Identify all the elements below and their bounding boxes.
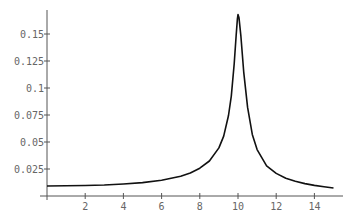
x-tick-label: 8 (197, 201, 203, 212)
y-tick-label: 0.1 (26, 83, 44, 94)
y-tick-label: 0.125 (14, 56, 44, 67)
y-tick-label: 0.05 (20, 137, 44, 148)
y-ticks: 0.0250.050.0750.10.1250.15 (14, 29, 50, 175)
y-axis: 0.0250.050.0750.10.1250.15 (14, 10, 50, 200)
y-tick-label: 0.025 (14, 164, 44, 175)
x-tick-label: 6 (159, 201, 165, 212)
y-tick-label: 0.075 (14, 110, 44, 121)
x-tick-label: 10 (232, 201, 244, 212)
line-chart: 2468101214 0.0250.050.0750.10.1250.15 (0, 0, 350, 218)
y-tick-label: 0.15 (20, 29, 44, 40)
x-tick-label: 4 (120, 201, 126, 212)
data-curve (47, 15, 334, 188)
x-axis: 2468101214 (40, 193, 343, 212)
x-tick-label: 14 (308, 201, 320, 212)
x-tick-label: 12 (270, 201, 282, 212)
x-tick-label: 2 (82, 201, 88, 212)
